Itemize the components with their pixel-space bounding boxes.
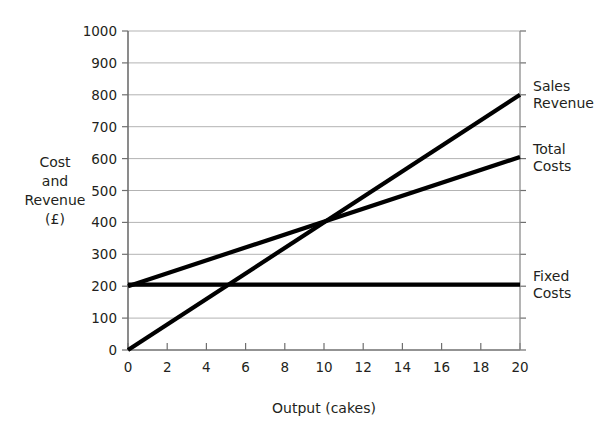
y-tick-label-500: 500	[91, 183, 117, 199]
y-tick-label-300: 300	[91, 246, 117, 262]
y-tick-label-800: 800	[91, 87, 117, 103]
y-tick-label-900: 900	[91, 55, 117, 71]
series-label-line: Revenue	[533, 95, 594, 111]
x-tick-label-18: 18	[472, 359, 489, 375]
y-tick-label-0: 0	[108, 342, 117, 358]
x-axis-title: Output (cakes)	[272, 400, 376, 416]
series-label-line: Sales	[533, 78, 570, 94]
x-tick-label-0: 0	[124, 359, 133, 375]
x-tick-label-10: 10	[315, 359, 332, 375]
series-label-line: Costs	[533, 285, 571, 301]
y-tick-label-700: 700	[91, 119, 117, 135]
series-label-line: Total	[532, 141, 566, 157]
x-tick-label-12: 12	[355, 359, 372, 375]
x-tick-label-4: 4	[202, 359, 211, 375]
y-tick-label-100: 100	[91, 310, 117, 326]
x-tick-label-2: 2	[163, 359, 172, 375]
y-tick-label-600: 600	[91, 151, 117, 167]
chart-canvas: 01002003004005006007008009001000 0246810…	[0, 0, 602, 441]
x-tick-label-6: 6	[241, 359, 250, 375]
y-axis-title-line: (£)	[45, 211, 65, 227]
y-axis-title-line: and	[42, 173, 68, 189]
y-tick-label-200: 200	[91, 278, 117, 294]
x-tick-label-14: 14	[394, 359, 411, 375]
series-label-line: Fixed	[533, 268, 569, 284]
series-label-line: Costs	[533, 158, 571, 174]
y-tick-label-400: 400	[91, 214, 117, 230]
x-tick-label-20: 20	[511, 359, 528, 375]
y-axis-title-line: Cost	[39, 154, 71, 170]
y-tick-label-1000: 1000	[83, 23, 117, 39]
series-label-fixed-costs: FixedCosts	[533, 268, 571, 301]
y-axis-title-line: Revenue	[25, 192, 86, 208]
series-label-total-costs: TotalCosts	[532, 141, 571, 174]
x-tick-label-8: 8	[281, 359, 290, 375]
break-even-chart: 01002003004005006007008009001000 0246810…	[0, 0, 602, 441]
x-tick-label-16: 16	[433, 359, 450, 375]
